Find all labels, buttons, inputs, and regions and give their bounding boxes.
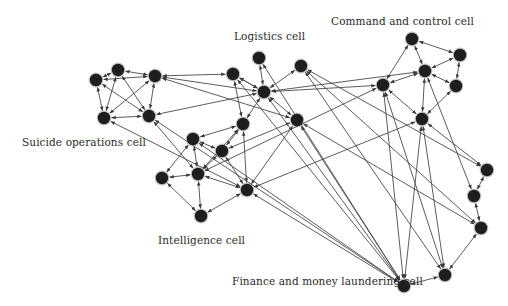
node-suicide-s3 (149, 70, 161, 82)
node-intelligence-i5 (241, 184, 253, 196)
node-command-c5 (377, 79, 389, 91)
node-command-c3 (419, 65, 431, 77)
edge-l1-f2 (238, 80, 399, 280)
edge-s1-s3 (104, 77, 148, 80)
edge-l2-l3 (260, 66, 263, 85)
edge-s5-l3 (157, 94, 257, 115)
edge-c3-c4 (432, 74, 449, 82)
edge-i3-i6 (168, 183, 196, 210)
edge-l4-f1 (305, 72, 440, 268)
edge-l3-l4 (270, 70, 294, 87)
node-suicide-s1 (90, 74, 102, 86)
node-layer (89, 32, 495, 294)
edge-s2-s4 (106, 77, 116, 110)
node-command-c6 (416, 113, 428, 125)
edge-c1-c3 (415, 46, 422, 64)
edge-s4-s5 (112, 116, 142, 117)
edge-i4-i6 (199, 182, 201, 209)
node-intelligence-i4 (192, 168, 204, 180)
edge-r3-f1 (450, 234, 477, 269)
node-logistics-l5 (237, 118, 249, 130)
edge-c2-c4 (457, 63, 459, 79)
network-graph (0, 0, 508, 306)
label-suicide-operations-cell: Suicide operations cell (22, 136, 146, 148)
edge-l5-i1 (200, 126, 235, 137)
edge-c6-f2 (405, 127, 421, 279)
node-logistics-m1 (291, 114, 303, 126)
edge-c3-r2 (428, 78, 471, 189)
edge-l3-f2 (269, 98, 400, 280)
edge-l3-c3 (272, 72, 418, 91)
edge-s1-s4 (98, 88, 103, 111)
node-intelligence-i1 (187, 133, 199, 145)
edge-s1-s2 (103, 73, 111, 77)
edge-c1-c2 (419, 41, 452, 52)
node-intelligence-i3 (156, 172, 168, 184)
edge-l1-l5 (235, 82, 242, 117)
label-intelligence-cell: Intelligence cell (158, 234, 245, 246)
node-logistics-l3 (258, 86, 270, 98)
node-intelligence-i2 (216, 145, 228, 157)
edge-s2-s5 (122, 76, 144, 109)
edge-s3-l1 (163, 74, 226, 76)
edge-s5-i4 (154, 122, 193, 168)
network-diagram: Logistics cell Command and control cell … (0, 0, 508, 306)
edge-s3-s5 (150, 84, 154, 109)
edge-i2-i4 (204, 156, 217, 168)
node-finance-r1 (481, 164, 493, 176)
node-command-c1 (406, 33, 418, 45)
node-command-c4 (450, 80, 462, 92)
edge-c6-r1 (428, 124, 481, 165)
node-finance-r3 (475, 222, 487, 234)
node-suicide-s2 (112, 64, 124, 76)
node-finance-r2 (468, 190, 480, 202)
edge-i3-i4 (170, 175, 191, 177)
node-finance-f1 (439, 269, 451, 281)
edge-c5-f2 (384, 93, 403, 279)
edge-i1-f2 (199, 143, 397, 281)
edge-l5-i2 (227, 130, 239, 145)
edge-i5-f2 (254, 194, 398, 282)
edge-s2-s3 (126, 71, 148, 75)
edge-m1-i5 (252, 126, 293, 183)
node-suicide-s5 (143, 110, 155, 122)
node-logistics-l4 (295, 60, 307, 72)
node-intelligence-i6 (195, 210, 207, 222)
label-logistics-cell: Logistics cell (234, 30, 305, 42)
edge-i6-i5 (208, 194, 241, 212)
label-finance-cell: Finance and money laundering cell (232, 275, 423, 287)
edge-l1-l3 (240, 78, 258, 88)
node-command-c2 (454, 49, 466, 61)
edge-l4-r3 (307, 71, 476, 223)
edge-c2-c3 (432, 58, 453, 68)
edge-m1-f2 (301, 127, 400, 280)
edge-i2-i5 (226, 158, 243, 184)
node-logistics-l2 (253, 52, 265, 64)
edge-c4-c6 (428, 91, 451, 113)
node-logistics-l1 (227, 68, 239, 80)
edge-r2-r3 (476, 204, 480, 221)
edge-c3-c6 (423, 79, 425, 112)
edge-c5-c6 (389, 90, 416, 114)
edge-s3-s4 (110, 81, 149, 113)
edge-r1-r2 (477, 177, 483, 189)
label-command-control-cell: Command and control cell (331, 15, 474, 27)
node-suicide-s4 (98, 112, 110, 124)
edge-c5-f1 (385, 92, 442, 267)
edge-c6-f1 (423, 127, 444, 268)
